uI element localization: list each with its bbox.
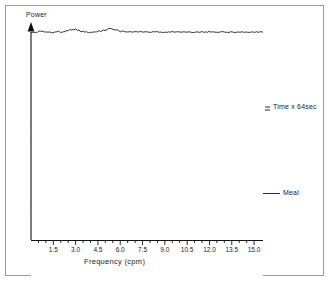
x-tick-label: 9.0 <box>160 246 169 253</box>
x-tick-label: 12.0 <box>203 246 216 253</box>
x-tick-label: 1.5 <box>49 246 58 253</box>
y-axis-label: Power <box>26 11 47 18</box>
x-tick-label: 15.0 <box>248 246 261 253</box>
plot-canvas <box>0 0 332 284</box>
waterfall-chart: Power Frequency (cpm) Time x 64sec Meal … <box>0 0 332 284</box>
x-tick-label: 4.5 <box>93 246 102 253</box>
x-tick-label: 7.5 <box>138 246 147 253</box>
x-tick-label: 13.5 <box>225 246 238 253</box>
trace-mask <box>31 28 263 72</box>
time-annotation: Time x 64sec <box>273 103 317 110</box>
y-axis-arrow-icon <box>28 22 35 32</box>
x-tick-label: 10.5 <box>181 246 194 253</box>
x-axis-label: Frequency (cpm) <box>84 257 145 266</box>
x-tick-label: 6.0 <box>116 246 125 253</box>
meal-annotation: Meal <box>283 189 299 196</box>
x-tick-label: 3.0 <box>71 246 80 253</box>
